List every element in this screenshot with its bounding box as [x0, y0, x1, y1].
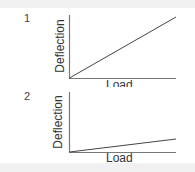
diagram-canvas: 1 Deflection Load 2 Deflection Load [0, 0, 195, 172]
panel-2-x-axis-label: Load [106, 152, 133, 164]
panel-2-plot [0, 0, 195, 172]
